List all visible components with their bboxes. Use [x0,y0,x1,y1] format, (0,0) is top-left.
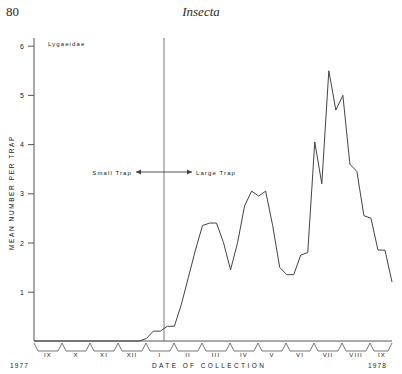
y-tick-label-3: 3 [20,190,24,197]
x-tick-label-ix-1978: IX [378,352,386,358]
y-axis-title: MEAN NUMBER PER TRAP [8,135,15,250]
lygaeidae-line-chart: 6 5 4 3 2 1 MEAN NUMBER PER TRAP Lygaeid… [0,0,402,374]
x-tick-label-xii: XII [127,352,138,358]
data-series-line [34,71,392,341]
series-label: Lygaeidae [48,41,85,47]
x-tick-label-ix-1977: IX [44,352,52,358]
x-tick-label-viii: VIII [349,352,362,358]
x-axis-year-end: 1978 [368,362,387,369]
x-axis-month-brackets [34,343,392,351]
x-axis-year-start: 1977 [10,362,29,369]
x-tick-label-iv: IV [240,352,248,358]
y-tick-label-5: 5 [20,92,24,99]
x-tick-label-x: X [73,352,78,358]
small-trap-label: Small Trap [92,170,132,176]
x-tick-label-i: I [159,352,162,358]
x-tick-label-v: V [269,352,274,358]
y-tick-label-6: 6 [20,43,24,50]
y-axis-ticks [28,46,34,292]
x-tick-label-iii: III [212,352,220,358]
y-tick-label-2: 2 [20,240,24,247]
x-tick-label-vi: VI [296,352,304,358]
x-tick-label-xi: XI [100,352,108,358]
x-axis-title: DATE OF COLLECTION [152,362,266,369]
y-tick-label-4: 4 [20,141,24,148]
y-tick-label-1: 1 [20,289,24,296]
x-tick-label-vii: VII [323,352,334,358]
x-tick-label-ii: II [185,352,191,358]
large-trap-label: Large Trap [196,170,236,176]
